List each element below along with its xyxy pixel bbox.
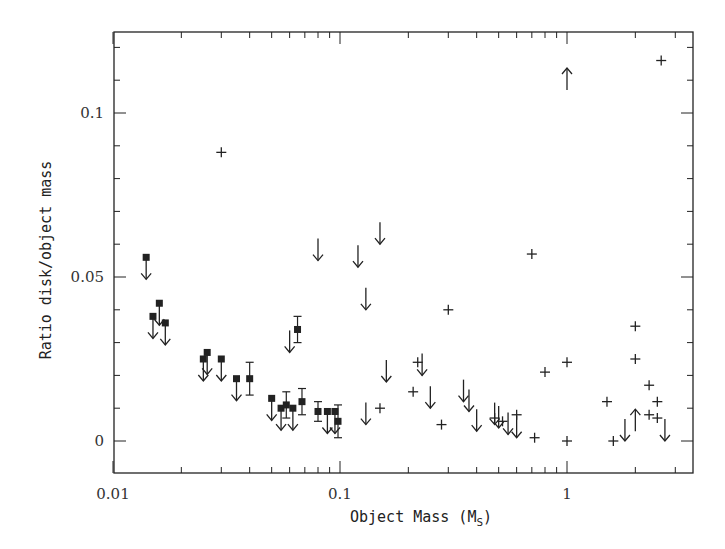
data-point-plus	[437, 420, 447, 430]
data-point-plus	[602, 397, 612, 407]
data-point-arrow-down	[459, 380, 469, 402]
data-point-plus	[443, 305, 453, 315]
data-point-arrow-down	[417, 353, 427, 375]
data-point-square-arrow-down	[148, 313, 158, 339]
data-point-square-errorbar	[282, 392, 290, 418]
data-point-plus	[512, 410, 522, 420]
data-point-arrow-down	[381, 360, 391, 382]
x-axis-label: Object Mass (MS)	[350, 508, 492, 529]
data-point-arrow-down	[285, 330, 295, 352]
x-axis-label-main: Object Mass (M	[350, 508, 476, 526]
data-point-arrow-down	[361, 403, 371, 425]
x-tick-label: 0.1	[328, 485, 352, 503]
y-tick-label: 0	[94, 432, 104, 450]
data-point-arrow-down	[620, 419, 630, 441]
data-point-square-errorbar	[298, 389, 306, 415]
data-point-plus	[652, 397, 662, 407]
data-point-plus	[527, 249, 537, 259]
data-point-plus	[562, 357, 572, 367]
data-point-plus	[562, 436, 572, 446]
y-axis-label: Ratio disk/object mass	[37, 161, 55, 360]
data-point-arrow-up	[630, 409, 640, 431]
y-tick-label: 0.1	[80, 104, 104, 122]
data-point-square-errorbar	[314, 402, 322, 422]
data-point-plus	[608, 436, 618, 446]
data-point-plus	[630, 321, 640, 331]
data-point-square-arrow-down	[160, 319, 170, 345]
data-point-square-arrow-down	[141, 254, 151, 280]
data-point-plus	[413, 357, 423, 367]
data-point-arrow-up	[562, 68, 572, 90]
axis-ticks	[113, 32, 693, 473]
plot-frame	[114, 32, 693, 473]
data-point-plus	[375, 403, 385, 413]
data-point-arrow-down	[375, 222, 385, 244]
data-point-arrow-down	[660, 419, 670, 441]
data-point-arrow-down	[361, 288, 371, 310]
data-point-plus	[530, 433, 540, 443]
data-point-arrow-down	[503, 412, 513, 434]
scatter-plot: 0.010.1100.050.1	[0, 0, 725, 549]
data-point-plus	[630, 354, 640, 364]
data-point-square-arrow-down	[267, 395, 277, 421]
data-point-arrow-down	[472, 409, 482, 431]
data-point-square-arrow-down	[216, 356, 226, 382]
data-points	[141, 56, 670, 446]
y-tick-label: 0.05	[71, 268, 104, 286]
tick-labels: 0.010.1100.050.1	[71, 104, 572, 503]
data-point-plus	[408, 387, 418, 397]
data-point-plus	[656, 56, 666, 66]
x-axis-label-end: )	[483, 508, 492, 526]
data-point-arrow-down	[464, 389, 474, 411]
data-point-plus	[216, 147, 226, 157]
data-point-plus	[540, 367, 550, 377]
data-point-arrow-down	[425, 386, 435, 408]
x-tick-label: 1	[562, 485, 572, 503]
data-point-square-arrow-down	[322, 408, 332, 434]
data-point-arrow-down	[353, 245, 363, 267]
data-point-square-arrow-down	[232, 375, 242, 401]
data-point-square-errorbar	[294, 316, 302, 342]
data-point-plus	[644, 380, 654, 390]
x-tick-label: 0.01	[96, 485, 129, 503]
data-point-square-errorbar	[246, 362, 254, 395]
data-point-arrow-down	[313, 239, 323, 261]
